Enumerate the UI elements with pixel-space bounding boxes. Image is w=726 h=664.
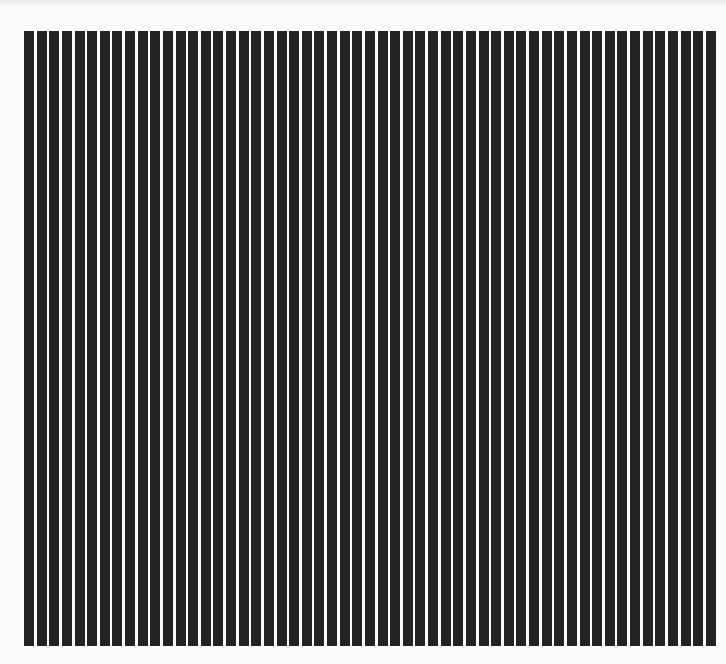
stripe	[24, 31, 34, 646]
stripe	[340, 31, 350, 646]
stripe	[706, 31, 716, 646]
stripe	[176, 31, 186, 646]
stripe	[100, 31, 110, 646]
stripe	[37, 31, 47, 646]
stripe	[239, 31, 249, 646]
stripe	[365, 31, 375, 646]
stripe	[302, 31, 312, 646]
stripe	[378, 31, 388, 646]
stripe	[668, 31, 678, 646]
stripe	[264, 31, 274, 646]
stripe	[226, 31, 236, 646]
stripe	[491, 31, 501, 646]
stripe	[87, 31, 97, 646]
stripe	[163, 31, 173, 646]
stripe	[655, 31, 665, 646]
stripe	[314, 31, 324, 646]
stripe	[125, 31, 135, 646]
stripe	[529, 31, 539, 646]
stripe	[150, 31, 160, 646]
stripe	[62, 31, 72, 646]
stripe	[643, 31, 653, 646]
scan-edge	[0, 0, 726, 8]
stripe	[188, 31, 198, 646]
stripe	[542, 31, 552, 646]
stripe	[453, 31, 463, 646]
stripe	[251, 31, 261, 646]
stripe	[327, 31, 337, 646]
stripe	[277, 31, 287, 646]
stripe	[441, 31, 451, 646]
vertical-stripe-grating	[24, 31, 716, 646]
stripe	[479, 31, 489, 646]
stripe	[630, 31, 640, 646]
stripe	[213, 31, 223, 646]
stripe	[592, 31, 602, 646]
stripe	[605, 31, 615, 646]
stripe	[554, 31, 564, 646]
stripe	[516, 31, 526, 646]
stripe	[567, 31, 577, 646]
stripe	[693, 31, 703, 646]
stripe	[428, 31, 438, 646]
stripe	[580, 31, 590, 646]
stripe	[49, 31, 59, 646]
stripe	[352, 31, 362, 646]
stripe	[201, 31, 211, 646]
stripe	[403, 31, 413, 646]
stripe	[466, 31, 476, 646]
stripe	[112, 31, 122, 646]
stripe	[504, 31, 514, 646]
stripe	[138, 31, 148, 646]
stripe	[617, 31, 627, 646]
stripe	[681, 31, 691, 646]
stripe	[75, 31, 85, 646]
stripe	[415, 31, 425, 646]
stripe	[289, 31, 299, 646]
stripe	[390, 31, 400, 646]
